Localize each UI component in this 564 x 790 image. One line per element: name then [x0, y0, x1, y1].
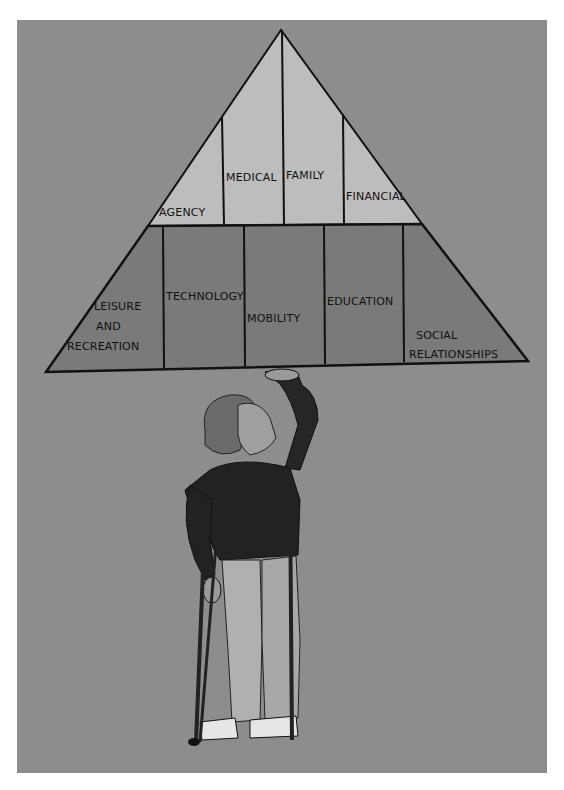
label-financial: FINANCIAL [346, 190, 407, 203]
label-and: AND [96, 320, 121, 333]
label-technology: TECHNOLOGY [165, 290, 244, 303]
crutch-right [290, 490, 292, 740]
label-family: FAMILY [286, 169, 324, 182]
label-mobility: MOBILITY [247, 312, 300, 325]
label-leisure: LEISURE [94, 300, 141, 313]
pyramid-diagram: AGENCY MEDICAL FAMILY FINANCIAL LEISURE … [0, 0, 564, 790]
label-education: EDUCATION [327, 295, 393, 308]
label-agency: AGENCY [159, 206, 206, 219]
boy-figure-illustration [185, 369, 318, 746]
label-medical: MEDICAL [226, 171, 278, 184]
label-relationships: RELATIONSHIPS [409, 348, 498, 361]
label-recreation: RECREATION [67, 340, 139, 353]
label-social: SOCIAL [416, 329, 458, 342]
